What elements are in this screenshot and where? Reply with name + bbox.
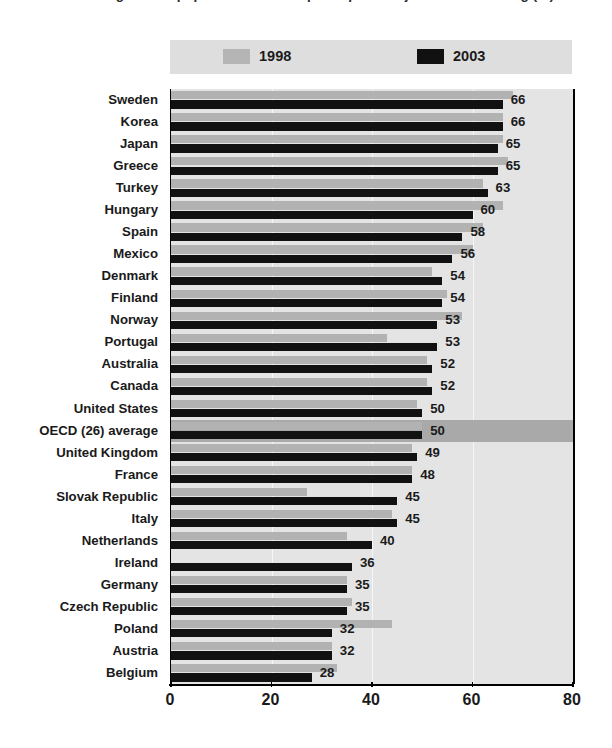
category-label: France (115, 464, 158, 486)
tick-mark (472, 682, 474, 687)
chart-row (171, 464, 573, 486)
category-label: United Kingdom (56, 442, 158, 464)
bar-1998 (171, 400, 417, 408)
bar-2003 (171, 343, 437, 351)
bar-2003 (171, 144, 498, 152)
category-label: Belgium (106, 662, 158, 684)
bar-2003 (171, 563, 352, 571)
category-label: Germany (101, 574, 158, 596)
x-axis-tick-label: 80 (563, 691, 581, 709)
bar-1998 (171, 201, 503, 209)
category-label: Denmark (102, 265, 158, 287)
chart-row (171, 640, 573, 662)
chart-row (171, 221, 573, 243)
category-label: Hungary (105, 199, 159, 221)
chart-row (171, 420, 573, 442)
chart-row (171, 398, 573, 420)
chart-legend: 1998 2003 (170, 40, 572, 74)
bar-1998 (171, 179, 483, 187)
tick-mark (170, 682, 172, 687)
bar-1998 (171, 113, 503, 121)
chart-row (171, 508, 573, 530)
chart-row (171, 353, 573, 375)
category-label: Greece (113, 155, 158, 177)
bar-2003 (171, 365, 432, 373)
bar-1998 (171, 466, 412, 474)
category-label: Czech Republic (60, 596, 158, 618)
bar-1998 (171, 223, 483, 231)
chart-row (171, 486, 573, 508)
chart-row (171, 662, 573, 684)
bar-2003 (171, 673, 312, 681)
category-label: Turkey (116, 177, 158, 199)
bar-2003 (171, 211, 473, 219)
value-axis-ticks: 020406080 (170, 686, 574, 726)
bar-2003 (171, 585, 347, 593)
bar-1998 (171, 576, 347, 584)
x-axis-tick-label: 60 (463, 691, 481, 709)
chart-row (171, 133, 573, 155)
chart-row (171, 287, 573, 309)
bar-2003 (171, 387, 432, 395)
bar-2003 (171, 541, 372, 549)
category-label: Korea (121, 111, 158, 133)
bar-2003 (171, 629, 332, 637)
bar-2003 (171, 122, 503, 130)
chart-row (171, 618, 573, 640)
chart-row (171, 552, 573, 574)
bar-1998 (171, 356, 427, 364)
bar-1998 (171, 312, 462, 320)
x-axis-tick-label: 0 (166, 691, 175, 709)
bar-2003 (171, 277, 442, 285)
bar-1998 (171, 267, 432, 275)
tick-mark (371, 682, 373, 687)
bar-2003 (171, 233, 462, 241)
bar-1998 (171, 245, 473, 253)
bar-1998 (171, 444, 412, 452)
bar-1998 (171, 378, 427, 386)
category-label: Mexico (113, 243, 158, 265)
chart-row (171, 155, 573, 177)
legend-swatch-1998-icon (223, 49, 250, 64)
bar-1998 (171, 664, 337, 672)
axis-right (573, 89, 575, 684)
bar-1998 (171, 598, 352, 606)
category-label: Canada (110, 375, 158, 397)
chart-row (171, 199, 573, 221)
category-label: Japan (120, 133, 158, 155)
legend-item-1998[interactable]: 1998 (223, 49, 291, 64)
x-axis-tick-label: 40 (362, 691, 380, 709)
bar-1998 (171, 620, 392, 628)
category-label: Poland (114, 618, 158, 640)
chart-row (171, 243, 573, 265)
chart-row (171, 89, 573, 111)
bar-2003 (171, 321, 437, 329)
chart-row (171, 331, 573, 353)
chart-row (171, 111, 573, 133)
category-label: Netherlands (82, 530, 158, 552)
legend-item-2003[interactable]: 2003 (417, 49, 485, 64)
x-axis-tick-label: 20 (262, 691, 280, 709)
category-label: Austria (113, 640, 158, 662)
bar-1998 (171, 532, 347, 540)
category-label: Ireland (115, 552, 158, 574)
category-label: Finland (111, 287, 158, 309)
bar-1998 (171, 334, 387, 342)
bar-2003 (171, 167, 498, 175)
category-axis-labels: SwedenKoreaJapanGreeceTurkeyHungarySpain… (0, 89, 164, 684)
chart-row (171, 574, 573, 596)
bar-2003 (171, 100, 503, 108)
bar-2003 (171, 475, 412, 483)
chart-row (171, 530, 573, 552)
category-label: Slovak Republic (56, 486, 158, 508)
category-label: United States (74, 398, 158, 420)
chart-row (171, 375, 573, 397)
bar-1998 (171, 642, 332, 650)
chart-title-clipped: Percentage of the population that has pa… (0, 0, 612, 5)
bar-1998 (171, 135, 503, 143)
category-label: OECD (26) average (39, 420, 158, 442)
plot-area (170, 89, 573, 684)
chart-row (171, 265, 573, 287)
chart-row (171, 177, 573, 199)
category-label: Sweden (108, 89, 158, 111)
